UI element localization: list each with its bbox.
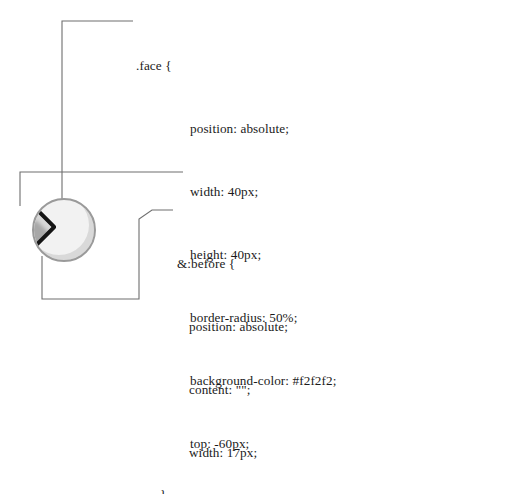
before-rotated-square xyxy=(32,206,57,248)
code-selector-before: &:before { xyxy=(177,253,340,274)
face-circle xyxy=(32,198,96,262)
code-line: width: 17px; xyxy=(177,442,340,463)
code-line: content: ""; xyxy=(177,379,340,400)
figure-page: .face { position: absolute; width: 40px;… xyxy=(0,0,506,494)
code-selector-face: .face { xyxy=(136,55,444,76)
page-caption xyxy=(196,484,366,494)
css-demo-graphic xyxy=(8,192,104,288)
leader-face xyxy=(62,21,133,212)
code-block-before: &:before { position: absolute; content: … xyxy=(177,211,340,494)
code-closing-brace-outer: } xyxy=(160,442,174,494)
code-line: } xyxy=(160,484,174,494)
code-line: width: 40px; xyxy=(136,181,444,202)
code-line: position: absolute; xyxy=(177,316,340,337)
code-line: position: absolute; xyxy=(136,118,444,139)
